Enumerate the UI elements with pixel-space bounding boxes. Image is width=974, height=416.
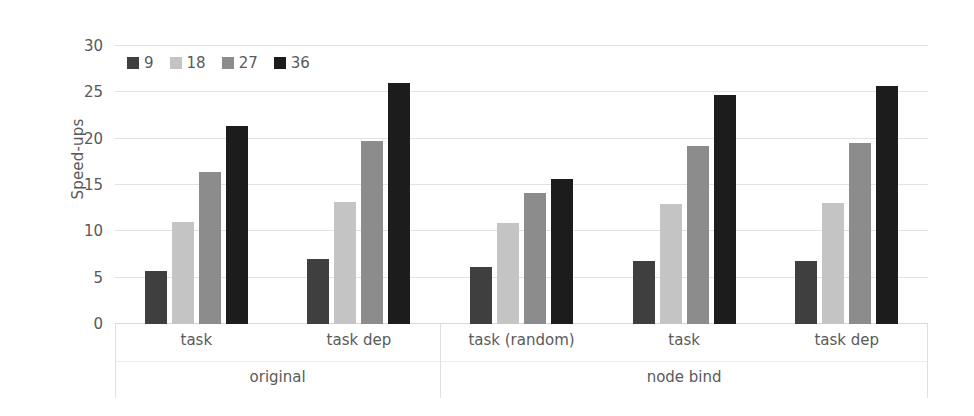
category-label: task (random)	[468, 331, 574, 349]
group-label: node bind	[647, 368, 722, 386]
y-axis-tick-label: 25	[63, 83, 103, 101]
bar-chart: Speed-ups 051015202530 tasktask deptask …	[0, 0, 974, 416]
y-axis-tick-labels: 051015202530	[55, 46, 103, 324]
legend-item[interactable]: 18	[170, 54, 206, 72]
legend-label: 18	[187, 54, 206, 72]
legend-label: 36	[291, 54, 310, 72]
y-axis-tick-label: 10	[63, 222, 103, 240]
y-axis-tick-label: 30	[63, 37, 103, 55]
bar	[876, 86, 898, 324]
bar	[172, 222, 194, 324]
bar	[687, 146, 709, 324]
legend-item[interactable]: 9	[127, 54, 154, 72]
legend-swatch-icon	[127, 57, 139, 69]
plot-area	[115, 46, 928, 324]
bars-layer	[115, 46, 928, 324]
category-label: task	[668, 331, 700, 349]
bar-group	[278, 46, 441, 324]
legend-swatch-icon	[274, 57, 286, 69]
bar	[470, 267, 492, 324]
bar	[361, 141, 383, 324]
bar	[849, 143, 871, 324]
bar	[497, 223, 519, 324]
bar	[660, 204, 682, 324]
bar-group	[440, 46, 603, 324]
bar	[388, 83, 410, 324]
legend-swatch-icon	[170, 57, 182, 69]
legend-label: 27	[239, 54, 258, 72]
bar-group	[603, 46, 766, 324]
axis-divider	[115, 361, 928, 362]
category-label: task dep	[814, 331, 879, 349]
bar	[226, 126, 248, 324]
axis-separator	[440, 324, 441, 398]
y-axis-tick-label: 20	[63, 130, 103, 148]
y-axis-tick-label: 0	[63, 315, 103, 333]
legend-label: 9	[144, 54, 154, 72]
category-label: task	[181, 331, 213, 349]
bar	[145, 271, 167, 324]
bar	[633, 261, 655, 324]
legend-item[interactable]: 27	[222, 54, 258, 72]
category-axis: tasktask deptask (random)tasktask depori…	[115, 324, 928, 404]
bar	[795, 261, 817, 324]
legend: 9182736	[127, 54, 310, 72]
legend-swatch-icon	[222, 57, 234, 69]
bar	[334, 202, 356, 324]
bar	[524, 193, 546, 324]
axis-separator	[115, 324, 116, 398]
bar-group	[115, 46, 278, 324]
group-label: original	[250, 368, 306, 386]
bar	[199, 172, 221, 324]
y-axis-tick-label: 5	[63, 269, 103, 287]
bar	[307, 259, 329, 324]
y-axis-tick-label: 15	[63, 176, 103, 194]
bar	[714, 95, 736, 324]
legend-item[interactable]: 36	[274, 54, 310, 72]
bar-group	[765, 46, 928, 324]
category-label: task dep	[327, 331, 392, 349]
axis-separator	[927, 324, 928, 398]
bar	[551, 179, 573, 324]
bar	[822, 203, 844, 324]
